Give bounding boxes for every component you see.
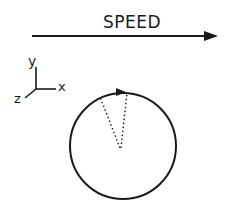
- wheel-circle: [70, 93, 176, 199]
- rotation-arrow-icon: [116, 88, 126, 96]
- dotted-radii: [100, 93, 127, 148]
- z-axis-label: z: [14, 92, 21, 105]
- speed-arrow-icon: [32, 31, 218, 41]
- dotted-radius-right: [121, 93, 127, 148]
- diagram-canvas: SPEED y x z: [0, 0, 230, 201]
- y-axis-label: y: [28, 54, 36, 68]
- coordinate-axes-icon: [25, 67, 56, 98]
- z-axis-line: [25, 89, 36, 98]
- speed-label: SPEED: [103, 14, 161, 31]
- dotted-radius-left: [100, 97, 120, 148]
- x-axis-label: x: [58, 80, 66, 93]
